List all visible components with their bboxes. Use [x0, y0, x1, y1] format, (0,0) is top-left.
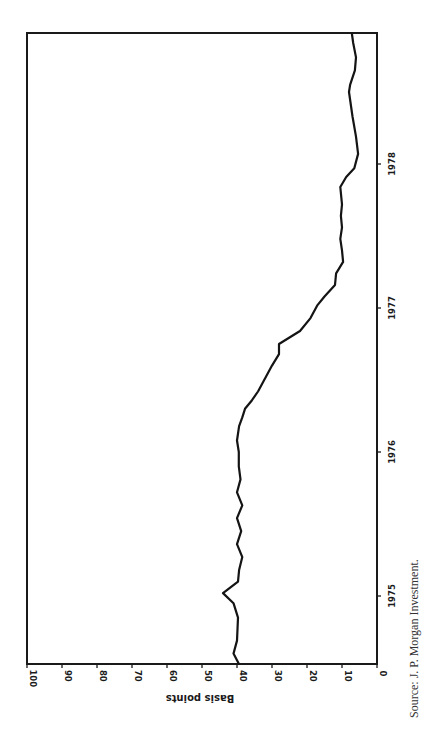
value-tick-label: 40 [238, 670, 248, 682]
value-tick-label: 10 [343, 670, 353, 682]
value-tick-label: 70 [133, 670, 143, 682]
value-tick-label: 30 [273, 670, 283, 682]
value-tick-label: 60 [168, 670, 178, 682]
source-note: Source: J. P. Morgan Investment. [407, 559, 421, 718]
time-axis-ticks: 1975197619771978 [377, 152, 397, 608]
time-tick-label: 1976 [387, 440, 397, 464]
basis-points-series-line [223, 33, 358, 664]
value-tick-label: 80 [98, 670, 108, 682]
value-tick-label: 100 [28, 669, 38, 687]
value-tick-label: 20 [308, 670, 318, 682]
value-axis-ticks: 1009080706050403020100 [27, 664, 388, 687]
plot-frame [27, 33, 377, 664]
basis-points-line-chart: 1009080706050403020100 1975197619771978 … [0, 0, 430, 733]
value-axis-title: Basis points [166, 693, 235, 704]
time-tick-label: 1977 [387, 296, 397, 320]
value-tick-label: 90 [63, 670, 73, 682]
time-tick-label: 1975 [387, 584, 397, 608]
value-tick-label: 0 [378, 670, 388, 676]
time-tick-label: 1978 [387, 152, 397, 176]
value-tick-label: 50 [203, 670, 213, 682]
